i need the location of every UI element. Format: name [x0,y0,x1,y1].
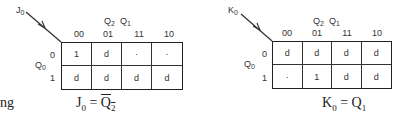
kmap-cell: d [92,66,122,89]
equation-j0: J0 = Q2 [76,95,115,113]
corner-label: J0 [16,5,24,16]
column-variables: Q2 Q1 [313,16,340,27]
kmap-cell: d [332,65,362,88]
kmap-cell: d [273,42,303,65]
col-header: 01 [305,28,329,38]
kmap-cell: d [303,42,333,65]
row-variable: Q0 [35,60,46,71]
kmap-cell: d [62,66,92,89]
col-header: 10 [157,29,181,39]
corner-label: K0 [228,5,238,16]
col-header: 11 [335,28,359,38]
kmap-cell: d [362,42,392,65]
row-header: 1 [262,73,267,83]
equation-k0: K0 = Q1 [322,95,366,113]
kmap-cell: 1 [303,65,333,88]
kmap-cell: d [152,66,182,89]
row-variable: Q0 [244,59,255,70]
col-header: 00 [67,29,91,39]
col-header: 00 [275,28,299,38]
kmap-cell: d [92,43,122,66]
col-header: 10 [365,28,389,38]
kmap-cell: · [273,65,303,88]
row-header: 1 [50,73,55,83]
row-header: 0 [50,50,55,60]
column-variables: Q2 Q1 [104,16,131,27]
col-header: 01 [96,29,120,39]
kmap-cell: d [122,66,152,89]
kmap-grid: 1 d · · d d d d [61,42,183,90]
row-header: 0 [262,49,267,59]
kmap-grid: d d d d · 1 d d [272,41,392,89]
col-header: 11 [127,29,151,39]
kmap-cell: · [152,43,182,66]
kmap-cell: · [122,43,152,66]
kmap-cell: d [332,42,362,65]
kmap-cell: d [362,65,392,88]
kmap-cell: 1 [62,43,92,66]
